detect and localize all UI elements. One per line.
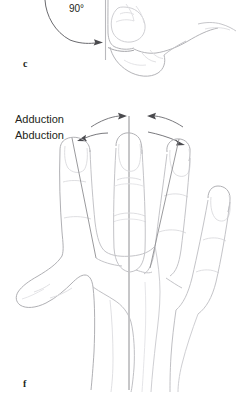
ninety-degree-arrowhead <box>94 39 103 45</box>
hand-outline-ulnar-border <box>170 310 176 392</box>
index-pip-crease <box>64 217 91 219</box>
adduction-arrow-left-head <box>118 113 127 120</box>
dorsum-metacarpal-line-1 <box>93 287 134 392</box>
adduction-arrow-right-head <box>147 113 156 120</box>
dorsum-tendon-line-1 <box>110 300 113 392</box>
ring-finger-left-contour <box>144 154 167 274</box>
figure-linework <box>0 0 241 399</box>
panel-c-finger-upper-contour <box>134 28 218 53</box>
web-space-middle-ring <box>136 270 152 273</box>
adduction-arrow-left-shaft <box>91 116 119 127</box>
ring-finger-right-contour <box>170 158 190 276</box>
ring-fingernail <box>170 149 190 176</box>
panel-c-pulp-crease <box>124 60 146 65</box>
ninety-degree-arc <box>45 0 70 40</box>
hand-outline-left-thumb-side <box>16 150 94 390</box>
little-pip-crease <box>196 270 219 273</box>
panel-c-finger-crease-2 <box>150 50 163 59</box>
dorsum-tendon-line-2 <box>142 282 146 392</box>
dorsum-metacarpal-line-2 <box>151 246 160 392</box>
little-finger-left-contour <box>176 200 208 310</box>
panel-letter-c: c <box>23 59 27 69</box>
little-fingernail <box>211 195 230 221</box>
thumb-ip-crease <box>34 284 50 292</box>
panel-letter-f: f <box>23 379 26 389</box>
middle-finger-left-contour <box>114 148 129 272</box>
anatomy-figure: 90° c Adduction Abduction f <box>0 0 241 399</box>
index-dip-crease <box>63 181 86 183</box>
panel-c-knuckle-crease-2 <box>116 20 134 22</box>
abduction-label: Abduction <box>15 130 64 141</box>
panel-c-adjacent-finger-contour <box>198 23 236 32</box>
panel-c-adjacent-finger-crease <box>205 28 230 30</box>
ring-dip-crease <box>164 194 188 197</box>
abduction-arrow-left-shaft <box>85 133 108 138</box>
web-space-ring-little <box>166 278 182 288</box>
ring-pip-crease <box>159 230 186 233</box>
thumb-nail-edge <box>22 289 44 299</box>
hand-outline-ulnar-border-outer <box>178 314 198 392</box>
panel-f-illustration <box>16 113 230 392</box>
adduction-label: Adduction <box>15 114 64 125</box>
ring-finger-axis-line <box>150 139 179 268</box>
middle-fingernail <box>119 144 141 171</box>
little-dip-crease <box>203 238 226 241</box>
ninety-degree-arc-tail <box>70 40 95 43</box>
angle-label-90-degrees: 90° <box>69 4 84 14</box>
little-finger-right-contour <box>198 202 230 314</box>
adduction-arrow-right-shaft <box>155 116 183 127</box>
